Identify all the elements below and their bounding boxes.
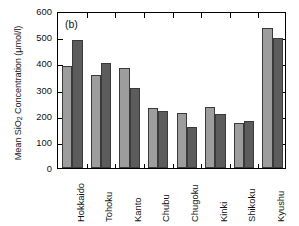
y-axis-tick-label: 0 — [18, 164, 52, 173]
bar-tohoku-light — [91, 75, 101, 168]
y-axis-tick-label: 600 — [18, 7, 52, 16]
y-axis-tick-labels: 0100200300400500600 — [18, 12, 52, 169]
x-axis-tick-label-kanto: Kanto — [133, 198, 142, 223]
bar-kanto-light — [119, 68, 129, 168]
bar-hokkaido-light — [62, 66, 72, 168]
x-axis-tick-labels: HokkaidoTohokuKantoChubuChugokuKinkiShik… — [57, 170, 286, 226]
bar-shikoku-dark — [244, 121, 254, 168]
bar-shikoku-light — [234, 123, 244, 168]
y-axis-tick-label: 100 — [18, 138, 52, 147]
y-axis-tick-label: 400 — [18, 60, 52, 69]
chart-figure: Mean SiO2 Concentration (µmol/l) 0100200… — [0, 0, 299, 226]
bar-kyushu-dark — [273, 38, 283, 168]
x-axis-tick-label-chugoku: Chugoku — [190, 184, 199, 222]
x-axis-tick-label-kyushu: Kyushu — [276, 191, 285, 222]
y-axis-tick-label: 500 — [18, 33, 52, 42]
bar-kinki-light — [205, 107, 215, 168]
plot-area: (b) — [57, 12, 286, 169]
bar-chugoku-light — [177, 113, 187, 168]
bar-hokkaido-dark — [72, 40, 82, 168]
bar-tohoku-dark — [101, 63, 111, 168]
bar-kyushu-light — [262, 28, 272, 168]
panel-label: (b) — [65, 18, 78, 30]
bar-group-container — [58, 13, 285, 168]
y-axis-tick-label: 300 — [18, 86, 52, 95]
bar-chubu-dark — [158, 111, 168, 168]
y-axis-tick-label: 200 — [18, 112, 52, 121]
x-axis-tick-label-shikoku: Shikoku — [247, 189, 256, 222]
bar-chugoku-dark — [187, 127, 197, 168]
x-axis-tick-label-tohoku: Tohoku — [104, 192, 113, 222]
x-axis-tick-label-chubu: Chubu — [161, 194, 170, 222]
x-axis-tick-label-hokkaido: Hokkaido — [76, 183, 85, 222]
bar-kinki-dark — [215, 114, 225, 168]
x-axis-tick-label-kinki: Kinki — [219, 202, 228, 222]
bar-kanto-dark — [130, 88, 140, 168]
bar-chubu-light — [148, 108, 158, 168]
